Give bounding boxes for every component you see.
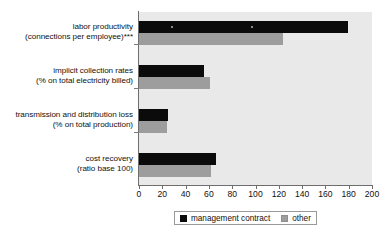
category-label-labor-productivity: labor productivity (connections per empl… xyxy=(0,22,133,41)
x-axis-tick-label: 120 xyxy=(266,189,292,200)
bar-management-contract xyxy=(139,109,168,121)
legend-entry-management-contract: management contract xyxy=(180,214,270,223)
x-axis-tick-label: 60 xyxy=(196,189,222,200)
category-label-line1: transmission and distribution loss xyxy=(0,110,133,120)
bars-layer xyxy=(139,12,372,185)
category-axis-labels: labor productivity (connections per empl… xyxy=(0,12,136,185)
x-axis-tick-label: 180 xyxy=(336,189,362,200)
bar-other xyxy=(139,77,210,89)
bar-group-labor-productivity xyxy=(139,21,372,45)
category-label-line1: cost recovery xyxy=(0,154,133,164)
category-label-line2: (% on total electricity billed) xyxy=(0,76,133,86)
bar-other xyxy=(139,165,211,177)
x-axis-tick-label: 0 xyxy=(126,189,152,200)
legend-swatch-icon xyxy=(281,215,288,222)
category-label-cost-recovery: cost recovery (ratio base 100) xyxy=(0,154,133,173)
bar-management-contract xyxy=(139,153,216,165)
category-label-transmission-distribution-loss: transmission and distribution loss (% on… xyxy=(0,110,133,129)
x-axis-tick-label: 140 xyxy=(289,189,315,200)
category-label-line1: implicit collection rates xyxy=(0,66,133,76)
bar-other xyxy=(139,121,167,133)
bar-group-implicit-collection-rates xyxy=(139,65,372,89)
x-axis-tick-label: 20 xyxy=(149,189,175,200)
legend-label: management contract xyxy=(191,214,270,223)
bar-group-cost-recovery xyxy=(139,153,372,177)
category-label-line2: (connections per employee)*** xyxy=(0,32,133,42)
legend: management contract other xyxy=(174,211,317,225)
legend-swatch-icon xyxy=(180,215,187,222)
x-axis-tick-label: 200 xyxy=(359,189,385,200)
bar-management-contract xyxy=(139,65,204,77)
bar-chart: labor productivity (connections per empl… xyxy=(0,0,392,235)
bar-management-contract xyxy=(139,21,348,33)
x-axis-tick-label: 80 xyxy=(219,189,245,200)
category-label-line2: (ratio base 100) xyxy=(0,164,133,174)
category-label-line1: labor productivity xyxy=(0,22,133,32)
legend-label: other xyxy=(292,214,311,223)
category-label-implicit-collection-rates: implicit collection rates (% on total el… xyxy=(0,66,133,85)
x-axis-tick-label: 100 xyxy=(243,189,269,200)
legend-entry-other: other xyxy=(281,214,311,223)
x-axis-tick-label: 40 xyxy=(173,189,199,200)
bar-other xyxy=(139,33,283,45)
bar-group-transmission-distribution-loss xyxy=(139,109,372,133)
category-label-line2: (% on total production) xyxy=(0,120,133,130)
x-axis-tick-label: 160 xyxy=(312,189,338,200)
